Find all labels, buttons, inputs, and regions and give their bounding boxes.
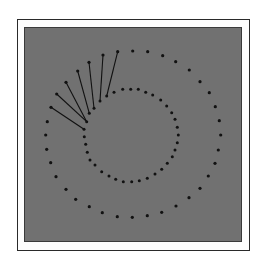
dot [49,161,52,164]
dot [174,60,177,63]
dot [121,88,124,91]
dot [64,81,67,84]
dot [207,174,210,177]
dot [151,94,154,97]
dot [154,173,157,176]
dot [83,135,86,138]
dot [49,106,52,109]
dot [161,54,164,57]
dot [138,179,141,182]
radial-connector-lines [51,52,118,130]
dot [86,151,89,154]
dot [137,88,140,91]
dot [113,91,116,94]
dot [114,178,117,181]
dot [116,215,119,218]
dot [198,187,201,190]
dot [85,120,88,123]
dot [176,126,179,129]
dot [160,211,163,214]
dot [83,128,86,131]
dot [100,170,103,173]
connector-line [66,82,87,121]
dot [74,198,77,201]
dot [165,105,168,108]
dot [174,204,177,207]
dot [208,91,211,94]
dot [94,164,97,167]
dot [131,216,134,219]
dot [146,50,149,53]
connector-line [89,62,94,108]
dot [44,133,47,136]
dot [177,134,180,137]
connector-line [107,52,118,96]
dot [170,111,173,114]
dot [146,177,149,180]
dot [159,99,162,102]
dot [176,141,179,144]
dot [174,118,177,121]
dot [88,112,91,115]
dot [130,180,133,183]
dot [55,92,58,95]
dot [166,162,169,165]
dot [122,180,125,183]
dot [101,211,104,214]
dot [84,143,87,146]
dot [54,175,57,178]
dot [160,168,163,171]
dot [218,119,221,122]
dot [105,95,108,98]
dot [108,175,111,178]
outer-circle-dots [44,49,222,219]
dot [213,162,216,165]
dot [146,214,149,217]
connector-line [100,55,103,101]
dot [64,188,67,191]
dot [101,53,104,56]
dot [88,205,91,208]
dot [93,107,96,110]
dot [89,159,92,162]
dot [116,50,119,53]
inner-circle-dots [83,88,180,183]
dot [187,196,190,199]
connector-line [57,94,87,122]
dot [76,69,79,72]
connector-line [51,107,84,129]
dot [188,68,191,71]
dot [198,80,201,83]
dot [214,105,217,108]
dot [129,88,132,91]
concentric-dot-circles-diagram [0,0,260,258]
dot [171,155,174,158]
dot [87,61,90,64]
dot [219,133,222,136]
dot [46,120,49,123]
dot [144,91,147,94]
dot [174,149,177,152]
dot [45,148,48,151]
dot [99,100,102,103]
dot [217,148,220,151]
dot [131,49,134,52]
